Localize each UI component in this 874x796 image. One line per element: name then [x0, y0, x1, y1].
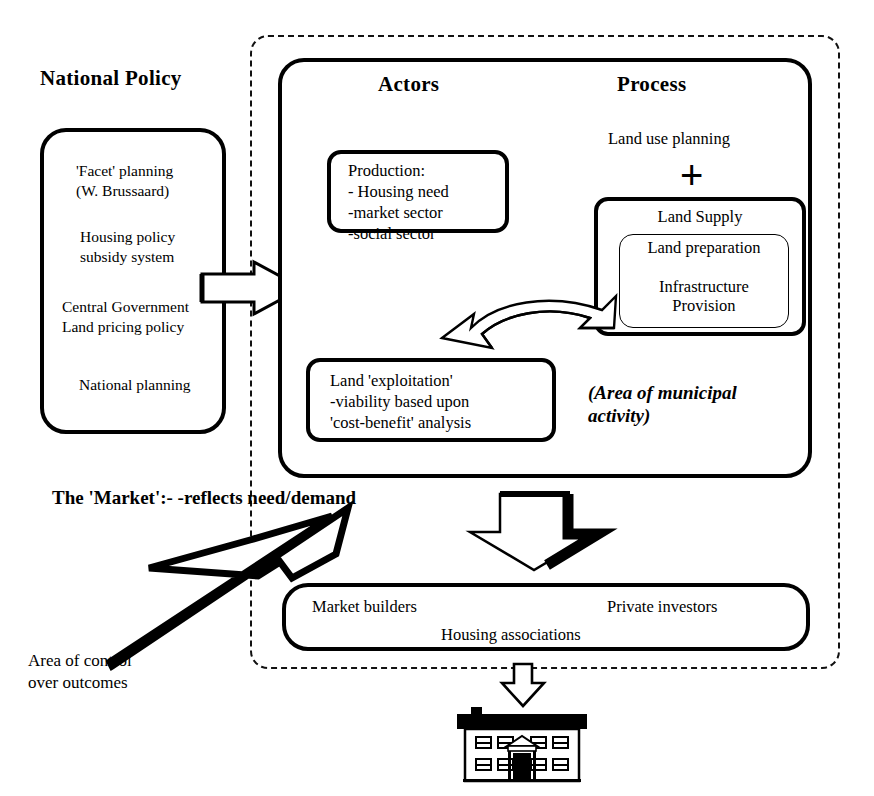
policy-item-national-planning: National planning [79, 375, 191, 395]
policy-item-housing-subsidy: Housing policy subsidy system [80, 227, 175, 267]
policy-item-land-pricing: Central Government Land pricing policy [62, 297, 189, 337]
delivery-actors-box[interactable]: Market builders Private investors Housin… [282, 583, 810, 651]
delivery-market-builders: Market builders [312, 596, 417, 617]
column-heading-process: Process [617, 72, 686, 97]
land-use-planning-label: Land use planning [608, 128, 730, 149]
production-box[interactable]: Production: - Housing need -market secto… [327, 150, 509, 233]
land-exploitation-text: Land 'exploitation' -viability based upo… [330, 370, 471, 433]
down-arrow-icon [452, 488, 612, 574]
diagram-canvas: National Policy 'Facet' planning (W. Bru… [0, 0, 874, 796]
page-title-national-policy: National Policy [40, 66, 182, 91]
land-exploitation-box[interactable]: Land 'exploitation' -viability based upo… [306, 358, 556, 442]
down-arrow-small-icon [495, 661, 551, 709]
delivery-private-investors: Private investors [607, 596, 717, 617]
delivery-housing-associations: Housing associations [441, 624, 581, 645]
municipal-activity-note: (Area of municipal activity) [588, 382, 737, 428]
curved-double-arrow-icon [430, 288, 630, 368]
policy-item-facet-planning: 'Facet' planning (W. Brussaard) [76, 161, 173, 201]
plus-symbol: + [680, 155, 703, 195]
land-supply-label: Land Supply [598, 206, 802, 227]
column-heading-actors: Actors [378, 72, 439, 97]
production-box-text: Production: - Housing need -market secto… [348, 160, 449, 244]
land-preparation-box[interactable]: Land preparation Infrastructure Provisio… [619, 234, 789, 328]
land-preparation-text: Land preparation Infrastructure Provisio… [620, 238, 788, 316]
house-icon [452, 705, 592, 787]
